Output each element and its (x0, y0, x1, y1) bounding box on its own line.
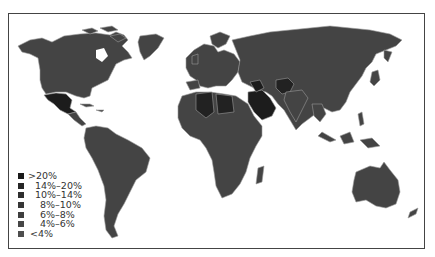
region-iberia (186, 80, 200, 90)
region-uk (192, 54, 198, 64)
region-australia (352, 162, 400, 208)
region-new-zealand (408, 208, 418, 218)
legend-swatch (18, 183, 24, 189)
legend-swatch (18, 202, 24, 208)
region-central-america (68, 112, 86, 126)
region-north-america (18, 32, 132, 98)
region-libya (216, 94, 234, 114)
region-philippines (358, 112, 364, 126)
region-greenland (138, 34, 164, 60)
region-indonesia (318, 132, 380, 148)
region-kamchatka (384, 50, 392, 62)
legend-label: <4% (28, 229, 53, 239)
region-madagascar (256, 166, 264, 184)
region-mexico (44, 93, 76, 114)
legend: >20% 14%–20% 10%–14% 8%–10% 6%–8% 4%–6% … (18, 171, 82, 239)
legend-swatch (18, 192, 24, 198)
legend-swatch (18, 231, 24, 237)
region-caribbean (80, 104, 104, 112)
region-japan (370, 70, 380, 86)
legend-swatch (18, 221, 24, 227)
legend-item: <4% (18, 229, 82, 239)
region-south-america (84, 126, 150, 238)
legend-swatch (18, 173, 24, 179)
legend-swatch (18, 212, 24, 218)
